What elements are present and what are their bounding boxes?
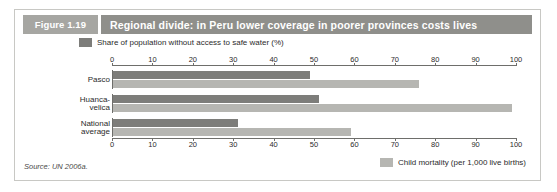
bar-group — [113, 117, 516, 138]
x-tick-label: 10 — [148, 55, 156, 64]
x-tick-label: 100 — [510, 140, 523, 149]
bar-child-mortality — [113, 104, 512, 112]
bar-child-mortality — [113, 80, 419, 88]
figure-card: Figure 1.19 Regional divide: in Peru low… — [14, 9, 541, 181]
x-tick-label: 70 — [391, 55, 399, 64]
figure-number-label: Figure 1.19 — [23, 15, 98, 34]
x-tick-label: 20 — [189, 55, 197, 64]
bar-row: Pasco — [62, 69, 525, 90]
x-tick-label: 40 — [269, 140, 277, 149]
x-tick-label: 10 — [148, 140, 156, 149]
x-tick-label: 30 — [229, 55, 237, 64]
mortality-legend-swatch — [380, 158, 393, 167]
figure-header: Figure 1.19 Regional divide: in Peru low… — [23, 15, 532, 34]
figure-title: Regional divide: in Peru lower coverage … — [101, 15, 532, 34]
bar-water-access — [113, 119, 238, 127]
category-label-line: Pasco — [0, 75, 110, 84]
bar-row: Nationalaverage — [62, 117, 525, 138]
bar-rows: PascoHuanca-velicaNationalaverage — [62, 67, 525, 138]
bar-row: Huanca-velica — [62, 93, 525, 114]
x-tick-label: 90 — [471, 55, 479, 64]
water-legend-swatch — [79, 38, 92, 47]
category-label-line: velica — [0, 104, 110, 113]
category-label: Nationalaverage — [0, 119, 110, 136]
bar-water-access — [113, 95, 319, 103]
x-tick-label: 70 — [391, 140, 399, 149]
x-axis-bottom: 0102030405060708090100 — [112, 138, 516, 152]
x-tick-label: 60 — [350, 140, 358, 149]
x-tick-label: 0 — [110, 140, 114, 149]
x-tick-label: 0 — [110, 55, 114, 64]
x-tick-label: 90 — [471, 140, 479, 149]
chart-plot-area: 0102030405060708090100 PascoHuanca-velic… — [62, 52, 525, 152]
source-note: Source: UN 2006a. — [24, 162, 88, 171]
bar-water-access — [113, 71, 310, 79]
category-label-line: average — [0, 128, 110, 137]
x-tick-label: 60 — [350, 55, 358, 64]
x-tick-label: 80 — [431, 140, 439, 149]
x-tick-label: 30 — [229, 140, 237, 149]
category-label: Pasco — [0, 75, 110, 84]
x-tick-label: 100 — [510, 55, 523, 64]
x-tick-label: 80 — [431, 55, 439, 64]
x-tick-label: 20 — [189, 140, 197, 149]
water-legend-label: Share of population without access to sa… — [97, 38, 284, 47]
bar-group — [113, 69, 516, 90]
bar-child-mortality — [113, 128, 351, 136]
legend-child-mortality: Child mortality (per 1,000 live births) — [380, 158, 526, 167]
mortality-legend-label: Child mortality (per 1,000 live births) — [398, 158, 526, 167]
bar-group — [113, 93, 516, 114]
x-tick-label: 50 — [310, 55, 318, 64]
x-tick-label: 50 — [310, 140, 318, 149]
legend-water: Share of population without access to sa… — [79, 38, 284, 47]
x-tick-label: 40 — [269, 55, 277, 64]
x-axis-top: 0102030405060708090100 — [112, 52, 516, 66]
category-label: Huanca-velica — [0, 95, 110, 112]
